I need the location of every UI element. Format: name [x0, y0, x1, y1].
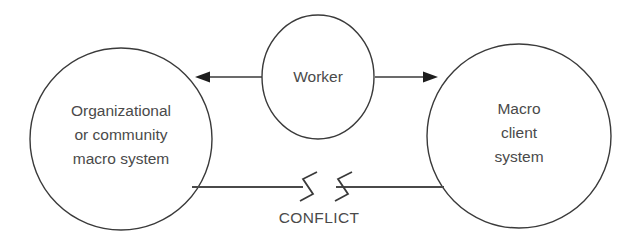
- connector-worker-to-left[interactable]: [195, 72, 262, 83]
- node-label-worker: Worker: [293, 68, 343, 85]
- diagram-canvas-container: Organizational or community macro system…: [0, 0, 629, 247]
- connector-conflict[interactable]: [192, 172, 444, 201]
- arrowhead-right-icon: [423, 72, 438, 83]
- conflict-label: CONFLICT: [279, 209, 360, 226]
- node-label-right-line-1: Macro: [497, 100, 540, 117]
- connector-worker-to-right[interactable]: [375, 72, 438, 83]
- relationship-diagram: Organizational or community macro system…: [0, 0, 629, 247]
- node-label-left-line-1: Organizational: [71, 102, 171, 119]
- node-label-left-line-2: or community: [74, 126, 167, 143]
- node-label-left-line-3: macro system: [73, 150, 169, 167]
- node-label-right-line-3: system: [494, 148, 543, 165]
- node-label-right-line-2: client: [501, 124, 538, 141]
- arrowhead-left-icon: [195, 72, 210, 83]
